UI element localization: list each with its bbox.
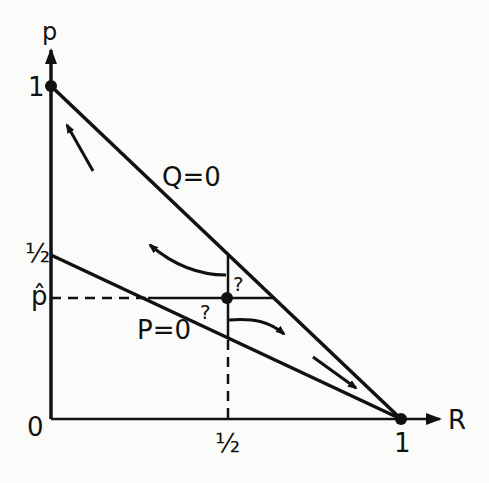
flow-arrow-upper-left [67, 125, 93, 171]
y-tick-phat-label: p̂ [31, 281, 48, 311]
p-zero-line [51, 255, 401, 419]
point-p-one [45, 80, 57, 92]
x-tick-half-label: ½ [215, 428, 240, 458]
p-zero-label: P=0 [137, 315, 191, 345]
x-tick-one-label: 1 [394, 428, 411, 458]
interior-equilibrium-point [221, 292, 233, 304]
y-axis-label: p [42, 18, 57, 46]
y-tick-half-label: ½ [25, 238, 50, 268]
flow-arrow-lower-right [313, 357, 356, 388]
question-mark-lower: ? [200, 300, 211, 324]
q-zero-line [51, 86, 401, 419]
phase-diagram: p R 0 1 ½ p̂ ½ 1 Q=0 P=0 ? ? [0, 0, 489, 483]
flow-arrow-middle-right [229, 320, 284, 334]
flow-arrow-middle-left [150, 245, 226, 275]
q-zero-label: Q=0 [162, 162, 221, 192]
origin-label: 0 [27, 412, 44, 442]
question-mark-upper: ? [233, 272, 244, 296]
y-tick-one-label: 1 [28, 72, 45, 102]
point-r-one [395, 413, 407, 425]
x-axis-label: R [448, 405, 466, 435]
